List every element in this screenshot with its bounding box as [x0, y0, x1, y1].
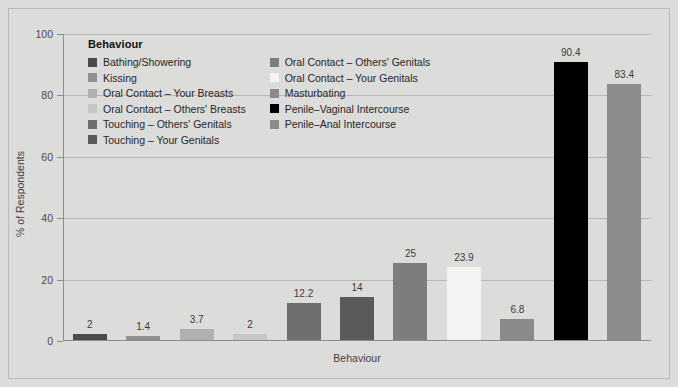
legend-item-label: Penile–Vaginal Intercourse [285, 103, 410, 115]
y-tick-label: 80 [41, 89, 53, 101]
legend-swatch-icon [270, 120, 279, 129]
legend-item[interactable]: Oral Contact – Others' Genitals [270, 56, 431, 68]
legend-item-label: Touching – Your Genitals [103, 134, 219, 146]
y-axis-title: % of Respondents [14, 151, 26, 237]
chart-legend: Behaviour Bathing/ShoweringKissingOral C… [88, 38, 430, 146]
legend-columns: Bathing/ShoweringKissingOral Contact – Y… [88, 56, 430, 146]
legend-item[interactable]: Oral Contact – Your Breasts [88, 87, 246, 99]
bar-value-label: 14 [351, 282, 362, 293]
bar[interactable]: 25 [393, 263, 427, 340]
y-tick-label: 0 [47, 335, 53, 347]
y-tick-label: 100 [35, 28, 53, 40]
legend-item-label: Kissing [103, 72, 137, 84]
legend-swatch-icon [88, 89, 97, 98]
y-tick-label: 20 [41, 274, 53, 286]
bar-value-label: 25 [405, 248, 416, 259]
bar[interactable]: 83.4 [607, 84, 641, 340]
legend-swatch-icon [88, 104, 97, 113]
bar[interactable]: 2 [73, 334, 107, 340]
legend-swatch-icon [270, 58, 279, 67]
legend-swatch-icon [88, 135, 97, 144]
legend-item[interactable]: Oral Contact – Your Genitals [270, 72, 431, 84]
bar-value-label: 12.2 [294, 288, 313, 299]
bar[interactable]: 90.4 [554, 62, 588, 340]
legend-item[interactable]: Touching – Your Genitals [88, 134, 246, 146]
legend-item-label: Penile–Anal Intercourse [285, 118, 397, 130]
legend-item[interactable]: Penile–Vaginal Intercourse [270, 103, 431, 115]
legend-swatch-icon [270, 73, 279, 82]
bar-value-label: 2 [247, 319, 253, 330]
legend-item[interactable]: Penile–Anal Intercourse [270, 118, 431, 130]
bar[interactable]: 6.8 [500, 319, 534, 340]
chart-figure: % of Respondents Behaviour 020406080100 … [0, 0, 678, 387]
legend-item-label: Oral Contact – Your Genitals [285, 72, 418, 84]
bar-value-label: 1.4 [136, 321, 150, 332]
legend-item[interactable]: Bathing/Showering [88, 56, 246, 68]
legend-item[interactable]: Masturbating [270, 87, 431, 99]
legend-item[interactable]: Touching – Others' Genitals [88, 118, 246, 130]
bar-slot[interactable]: 83.4 [598, 34, 651, 341]
legend-item[interactable]: Kissing [88, 72, 246, 84]
legend-item-label: Masturbating [285, 87, 346, 99]
bar[interactable]: 23.9 [447, 267, 481, 340]
bar[interactable]: 2 [233, 334, 267, 340]
y-tick-label: 40 [41, 212, 53, 224]
bar-value-label: 6.8 [510, 304, 524, 315]
legend-item-label: Oral Contact – Others' Genitals [285, 56, 431, 68]
legend-title: Behaviour [88, 38, 430, 50]
bar-value-label: 2 [87, 319, 93, 330]
bar-value-label: 90.4 [561, 47, 580, 58]
legend-column-2: Oral Contact – Others' GenitalsOral Cont… [270, 56, 431, 146]
legend-item-label: Bathing/Showering [103, 56, 191, 68]
bar-slot[interactable]: 6.8 [491, 34, 544, 341]
bar-value-label: 23.9 [454, 252, 473, 263]
y-tick-label: 60 [41, 151, 53, 163]
legend-swatch-icon [270, 104, 279, 113]
legend-swatch-icon [88, 73, 97, 82]
x-axis-title: Behaviour [63, 352, 651, 364]
y-tick [57, 341, 63, 342]
legend-item-label: Oral Contact – Your Breasts [103, 87, 233, 99]
bar[interactable]: 3.7 [180, 329, 214, 340]
legend-item-label: Touching – Others' Genitals [103, 118, 232, 130]
legend-column-1: Bathing/ShoweringKissingOral Contact – Y… [88, 56, 246, 146]
bar-slot[interactable]: 23.9 [437, 34, 490, 341]
legend-swatch-icon [270, 89, 279, 98]
bar-value-label: 3.7 [190, 314, 204, 325]
bar-slot[interactable]: 90.4 [544, 34, 597, 341]
legend-swatch-icon [88, 120, 97, 129]
legend-item[interactable]: Oral Contact – Others' Breasts [88, 103, 246, 115]
bar[interactable]: 12.2 [287, 303, 321, 340]
bar-value-label: 83.4 [615, 69, 634, 80]
legend-item-label: Oral Contact – Others' Breasts [103, 103, 246, 115]
bar[interactable]: 14 [340, 297, 374, 340]
bar[interactable]: 1.4 [126, 336, 160, 340]
legend-swatch-icon [88, 58, 97, 67]
